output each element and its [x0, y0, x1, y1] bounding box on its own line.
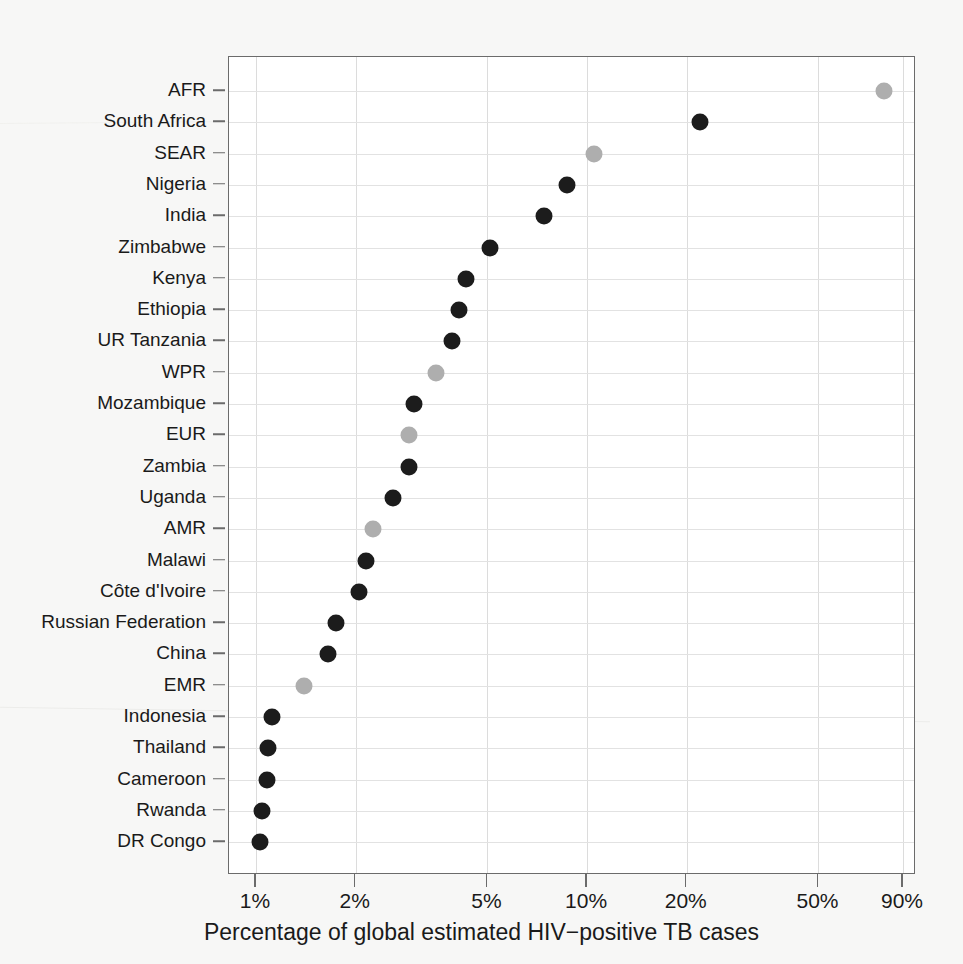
gridline-horizontal [229, 686, 914, 687]
y-axis-tick-label: Mozambique [97, 392, 206, 414]
y-axis-tick [213, 183, 225, 185]
gridline-vertical [687, 57, 688, 873]
gridline-horizontal [229, 341, 914, 342]
y-axis-tick-label: UR Tanzania [98, 329, 206, 351]
data-point [252, 834, 269, 851]
y-axis-tick-label: Uganda [139, 486, 206, 508]
y-axis-tick [213, 246, 225, 248]
y-axis-tick [213, 465, 225, 467]
gridline-horizontal [229, 373, 914, 374]
data-point [253, 802, 270, 819]
y-axis-tick [213, 715, 225, 717]
y-axis-tick-label: Cameroon [117, 768, 206, 790]
x-axis-tick [817, 874, 819, 887]
y-axis-tick-label: DR Congo [117, 830, 206, 852]
y-axis-tick [213, 747, 225, 749]
y-axis-tick-label: Zimbabwe [118, 236, 206, 258]
gridline-horizontal [229, 529, 914, 530]
x-axis-tick-label: 50% [796, 889, 838, 913]
x-axis-tick [901, 874, 903, 887]
gridline-horizontal [229, 91, 914, 92]
data-point [259, 771, 276, 788]
y-axis-tick-label: Malawi [147, 549, 206, 571]
gridline-horizontal [229, 717, 914, 718]
y-axis-tick [213, 121, 225, 123]
gridline-horizontal [229, 842, 914, 843]
y-axis-tick-label: China [156, 642, 206, 664]
y-axis-tick-label: Indonesia [124, 705, 206, 727]
data-point [385, 489, 402, 506]
gridline-horizontal [229, 248, 914, 249]
x-axis-tick-labels: 1%2%5%10%20%50%90% [0, 889, 963, 919]
y-axis-tick [213, 371, 225, 373]
gridline-horizontal [229, 435, 914, 436]
y-axis-tick-label: Thailand [133, 736, 206, 758]
x-axis-tick [685, 874, 687, 887]
data-point [482, 239, 499, 256]
gridline-horizontal [229, 498, 914, 499]
data-point [692, 114, 709, 131]
x-axis-tick-label: 10% [565, 889, 607, 913]
y-axis-tick-label: Rwanda [136, 799, 206, 821]
data-point [450, 302, 467, 319]
y-axis-tick-label: Zambia [143, 455, 206, 477]
y-axis-labels: AFRSouth AfricaSEARNigeriaIndiaZimbabweK… [0, 0, 206, 964]
x-axis-title: Percentage of global estimated HIV−posit… [0, 919, 963, 946]
data-point [296, 677, 313, 694]
y-axis-tick-label: Kenya [152, 267, 206, 289]
y-axis-tick [213, 152, 225, 154]
gridline-vertical [256, 57, 257, 873]
y-axis-tick [213, 89, 225, 91]
y-axis-tick-label: Russian Federation [41, 611, 206, 633]
y-axis-tick [213, 621, 225, 623]
y-axis-tick-label: AFR [168, 79, 206, 101]
gridline-horizontal [229, 279, 914, 280]
y-axis-tick [213, 340, 225, 342]
y-axis-tick [213, 653, 225, 655]
data-point [401, 458, 418, 475]
gridline-horizontal [229, 780, 914, 781]
data-point [401, 427, 418, 444]
y-axis-tick [213, 840, 225, 842]
gridline-horizontal [229, 310, 914, 311]
y-axis-tick-label: SEAR [154, 142, 206, 164]
x-axis-tick [486, 874, 488, 887]
data-point [264, 709, 281, 726]
data-point [535, 208, 552, 225]
gridline-horizontal [229, 467, 914, 468]
plot-area [228, 56, 915, 874]
y-axis-tick-label: AMR [164, 517, 206, 539]
gridline-horizontal [229, 561, 914, 562]
y-axis-tick [213, 434, 225, 436]
x-axis-tick [254, 874, 256, 887]
data-point [260, 740, 277, 757]
y-axis-tick [213, 308, 225, 310]
gridline-horizontal [229, 122, 914, 123]
data-point [457, 270, 474, 287]
gridline-vertical [587, 57, 588, 873]
y-axis-tick [213, 527, 225, 529]
y-axis-tick [213, 778, 225, 780]
data-point [351, 583, 368, 600]
x-axis-tick [585, 874, 587, 887]
y-axis-tick-label: Ethiopia [137, 298, 206, 320]
x-axis-tick-label: 20% [665, 889, 707, 913]
gridline-horizontal [229, 154, 914, 155]
gridline-vertical [903, 57, 904, 873]
hiv-tb-scatter-figure: AFRSouth AfricaSEARNigeriaIndiaZimbabweK… [0, 0, 963, 964]
data-point [876, 83, 893, 100]
y-axis-tick [213, 809, 225, 811]
x-axis-tick-label: 1% [240, 889, 270, 913]
y-axis-tick-label: EUR [166, 423, 206, 445]
y-axis-tick-label: WPR [162, 361, 206, 383]
gridline-vertical [356, 57, 357, 873]
x-axis-tick [354, 874, 356, 887]
x-axis-tick-label: 90% [881, 889, 923, 913]
gridline-horizontal [229, 216, 914, 217]
data-point [328, 615, 345, 632]
gridline-horizontal [229, 404, 914, 405]
data-point [405, 396, 422, 413]
data-point [320, 646, 337, 663]
data-point [559, 176, 576, 193]
data-point [443, 333, 460, 350]
